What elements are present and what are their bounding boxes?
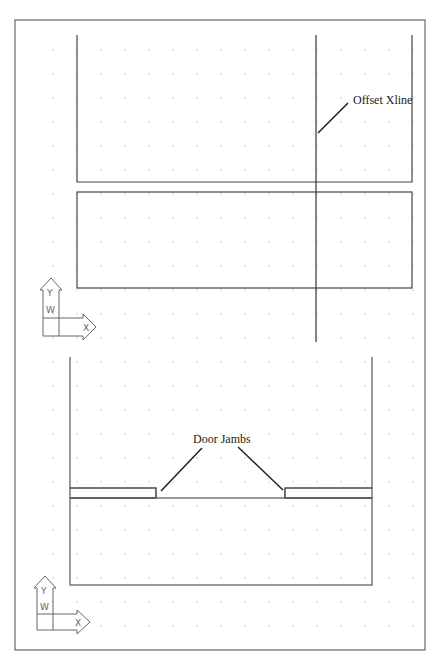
ucs-y-label: Y <box>40 586 47 596</box>
right-door-jamb <box>285 488 372 498</box>
door-jamb-leader-left <box>161 448 202 491</box>
snap-grid <box>52 49 413 626</box>
cad-drawing-canvas[interactable]: Offset Xline Y W X Door Jambs Y W X <box>0 0 438 656</box>
ucs-x-label: X <box>83 323 89 333</box>
ucs-w-label: W <box>46 305 55 315</box>
offset-xline-leader <box>318 103 348 133</box>
ucs-x-label: X <box>75 618 81 628</box>
ucs-y-label: Y <box>46 288 53 298</box>
top-room-outline <box>77 35 412 182</box>
bottom-room-walls <box>70 357 372 498</box>
offset-xline-label: Offset Xline <box>353 93 412 107</box>
top-lower-rectangle <box>77 192 412 288</box>
door-jamb-leader-right <box>238 447 283 490</box>
ucs-w-label: W <box>40 602 49 612</box>
left-door-jamb <box>70 488 156 498</box>
bottom-lower-rectangle <box>70 498 372 585</box>
door-jambs-label: Door Jambs <box>193 432 251 446</box>
